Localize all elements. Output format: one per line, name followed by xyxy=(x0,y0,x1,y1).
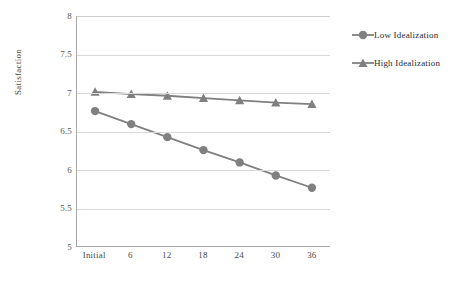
y-axis-tick-label: 8 xyxy=(32,12,72,21)
gridline xyxy=(77,55,330,56)
plot-area xyxy=(76,16,330,247)
x-axis-tick-labels: Initial61218243036 xyxy=(76,250,330,266)
gridline xyxy=(77,132,330,133)
circle-marker-icon xyxy=(163,133,171,141)
x-axis-tick-label: Initial xyxy=(83,250,106,260)
gridline xyxy=(77,170,330,171)
legend-item[interactable]: Low Idealization xyxy=(352,24,464,46)
x-axis-tick-label: 30 xyxy=(271,250,280,260)
x-axis-tick-label: 12 xyxy=(162,250,171,260)
chart-legend: Low IdealizationHigh Idealization xyxy=(352,24,464,80)
y-axis-tick-label: 7.5 xyxy=(32,50,72,59)
x-axis-tick-label: 24 xyxy=(235,250,244,260)
circle-marker-icon xyxy=(91,107,99,115)
y-axis-tick-label: 7 xyxy=(32,89,72,98)
line-chart: Satisfaction 55.566.577.58 Initial612182… xyxy=(0,0,464,287)
gridline xyxy=(77,209,330,210)
legend-swatch xyxy=(352,29,374,41)
legend-item[interactable]: High Idealization xyxy=(352,52,464,74)
circle-marker-icon xyxy=(272,171,280,179)
legend-label: High Idealization xyxy=(374,58,440,68)
y-axis-tick-labels: 55.566.577.58 xyxy=(26,16,72,247)
x-axis-tick-label: 18 xyxy=(198,250,207,260)
y-axis-tick-label: 5.5 xyxy=(32,204,72,213)
legend-swatch xyxy=(352,57,374,69)
circle-marker-icon xyxy=(359,31,367,39)
legend-label: Low Idealization xyxy=(374,30,438,40)
y-axis-title: Satisfaction xyxy=(13,5,23,95)
circle-marker-icon xyxy=(235,158,243,166)
x-axis-tick-label: 36 xyxy=(307,250,316,260)
circle-marker-icon xyxy=(308,184,316,192)
y-axis-tick-label: 5 xyxy=(32,243,72,252)
y-axis-tick-label: 6 xyxy=(32,166,72,175)
circle-marker-icon xyxy=(199,146,207,154)
circle-marker-icon xyxy=(127,120,135,128)
gridline xyxy=(77,16,330,17)
gridline xyxy=(77,93,330,94)
y-axis-tick-label: 6.5 xyxy=(32,127,72,136)
x-axis-tick-label: 6 xyxy=(128,250,133,260)
